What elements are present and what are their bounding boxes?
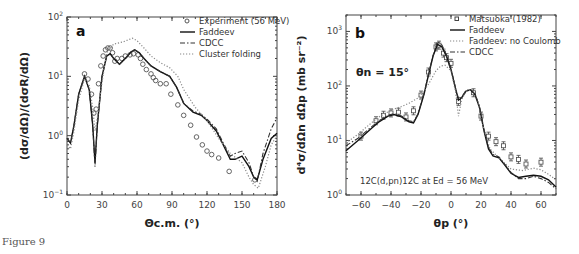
x-tick-label: 30 <box>96 200 108 210</box>
legend-entry: Experiment (56 MeV) <box>199 16 289 26</box>
data-point <box>176 103 181 108</box>
x-tick-label: 90 <box>166 200 178 210</box>
chart-panel-b: −60−40−200204060100101102103Matsuoka (19… <box>295 14 561 230</box>
data-point <box>158 81 163 86</box>
data-point <box>216 156 221 161</box>
x-axis-label: Θc.m. (°) <box>144 217 199 230</box>
x-tick-label: −60 <box>352 200 371 210</box>
y-tick-label: 100 <box>327 188 342 200</box>
legend-entry: CDCC <box>199 38 223 48</box>
x-tick-label: −20 <box>412 200 431 210</box>
y-tick-label: 102 <box>48 10 63 22</box>
data-point <box>205 149 210 154</box>
data-point <box>509 155 513 159</box>
data-point <box>200 143 205 148</box>
legend-entry: Faddeev: no Coulomb <box>469 36 561 46</box>
y-tick-label: 103 <box>327 24 342 36</box>
data-point <box>141 62 146 67</box>
data-point <box>487 134 491 138</box>
y-tick-label: 100 <box>48 129 63 141</box>
figure-canvas: 030609012015018010−1100101102Experiment … <box>0 0 579 254</box>
data-point <box>99 64 104 69</box>
figure-caption: Figure 9 <box>2 236 45 247</box>
x-tick-label: 0 <box>448 200 454 210</box>
chart-panel-a: 030609012015018010−1100101102Experiment … <box>18 10 289 230</box>
legend-entry: Faddeev <box>199 27 235 37</box>
x-tick-label: 150 <box>233 200 250 210</box>
annotation-theta-n: θn = 15° <box>356 66 409 79</box>
y-tick-label: 101 <box>327 133 342 145</box>
data-point <box>517 157 521 161</box>
data-point <box>539 160 543 164</box>
data-point <box>209 152 214 157</box>
x-axis-label: θp (°) <box>434 217 469 230</box>
data-point <box>194 135 199 140</box>
data-point <box>181 113 186 118</box>
x-tick-label: 20 <box>475 200 487 210</box>
data-point <box>494 140 498 144</box>
data-point <box>144 67 149 72</box>
panel-label: b <box>355 25 365 41</box>
data-point <box>412 109 416 113</box>
x-tick-label: 180 <box>268 200 285 210</box>
x-tick-label: 60 <box>535 200 547 210</box>
panel-label: a <box>76 23 85 39</box>
legend-entry: Cluster folding <box>199 49 261 59</box>
x-tick-label: 0 <box>64 200 70 210</box>
legend-entry: Matsuoka (1982) <box>469 14 541 24</box>
data-point <box>397 110 401 114</box>
data-point <box>101 54 106 59</box>
data-point <box>524 162 528 166</box>
x-tick-label: 60 <box>131 200 143 210</box>
legend-entry: CDCC <box>469 47 493 57</box>
y-tick-label: 101 <box>48 69 63 81</box>
y-tick-label: 102 <box>327 79 342 91</box>
data-point <box>502 144 506 148</box>
y-axis-label: (dσ/dΩ)/(dσR/dΩ) <box>18 52 31 160</box>
data-point <box>188 123 193 128</box>
data-point <box>164 81 169 86</box>
data-point <box>169 92 174 97</box>
data-point <box>227 169 232 174</box>
y-tick-label: 10−1 <box>43 188 63 200</box>
x-tick-label: 40 <box>505 200 517 210</box>
annotation-reaction: 12C(d,pn)12C at Ed = 56 MeV <box>360 176 488 186</box>
x-tick-label: 120 <box>198 200 215 210</box>
legend-entry: Faddeev <box>469 25 505 35</box>
x-tick-label: −40 <box>382 200 401 210</box>
y-axis-label: d⁴σ/dΩn dΩp (mb sr⁻²) <box>295 36 308 175</box>
data-point <box>96 81 101 86</box>
